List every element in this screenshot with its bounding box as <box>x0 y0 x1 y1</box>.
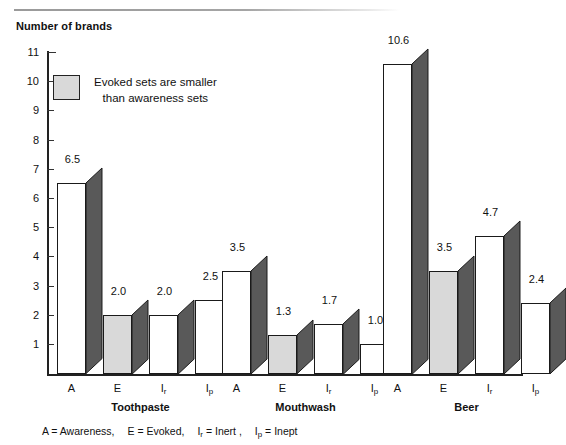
bar <box>429 256 474 374</box>
y-axis-tick <box>47 198 54 199</box>
bar-front-face <box>475 236 504 374</box>
y-axis-tick <box>47 227 54 228</box>
bar <box>103 300 148 374</box>
bar-value-label: 4.7 <box>483 206 498 218</box>
y-axis-tick <box>47 140 54 141</box>
bar-front-face <box>521 303 550 374</box>
bar-value-label: 1.3 <box>276 305 291 317</box>
x-axis-category-label: Ir <box>326 382 332 396</box>
legend-text: Evoked sets are smaller than awareness s… <box>94 74 217 106</box>
y-axis-tick-label: 5 <box>17 221 39 233</box>
bar-value-label: 2.0 <box>157 285 172 297</box>
bar-front-face <box>195 300 224 374</box>
bar <box>149 300 194 374</box>
y-axis-tick <box>47 110 54 111</box>
y-axis-line <box>47 51 49 374</box>
legend-swatch-evoked <box>53 75 80 100</box>
bar <box>268 320 313 374</box>
x-axis-category-label: Ir <box>487 382 493 396</box>
bar-front-face <box>383 64 412 374</box>
bar-front-face <box>314 324 343 374</box>
y-axis-tick <box>47 169 54 170</box>
footnote-item: Ir = Inert , <box>197 425 241 437</box>
y-axis-tick-label: 3 <box>17 280 39 292</box>
x-axis-baseline <box>47 374 523 376</box>
bar-front-face <box>222 271 251 374</box>
y-axis-tick-label: 10 <box>17 75 39 87</box>
x-axis-group-label: Mouthwash <box>275 401 336 413</box>
bar-front-face <box>268 335 297 374</box>
x-axis-group-label: Toothpaste <box>111 401 169 413</box>
footnote-item: E = Evoked, <box>127 425 184 437</box>
bar-front-face <box>149 315 178 374</box>
x-axis-category-label: E <box>279 382 286 394</box>
y-axis-tick-label: 7 <box>17 163 39 175</box>
bar-value-label: 6.5 <box>65 153 80 165</box>
y-axis-tick-label: 2 <box>17 309 39 321</box>
y-axis-tick-label: 11 <box>17 46 39 58</box>
y-axis-tick <box>47 52 56 53</box>
bar-value-label: 10.6 <box>388 34 409 46</box>
footnote-item: A = Awareness, <box>42 425 114 437</box>
bar <box>222 256 267 374</box>
footnote-item: Ip = Inept <box>255 425 298 437</box>
x-axis-category-label: Ip <box>206 382 214 396</box>
bar <box>475 221 520 374</box>
y-axis-tick <box>47 315 54 316</box>
x-axis-category-label: A <box>394 382 401 394</box>
bar <box>521 288 566 374</box>
x-axis-group-label: Beer <box>454 401 478 413</box>
footnote-abbreviations: A = Awareness,E = Evoked,Ir = Inert ,Ip … <box>42 425 298 439</box>
bar-front-face <box>103 315 132 374</box>
bar-value-label: 1.0 <box>368 314 383 326</box>
y-axis-tick-label: 8 <box>17 134 39 146</box>
bar-value-label: 2.5 <box>203 270 218 282</box>
x-axis-category-label: Ir <box>161 382 167 396</box>
y-axis-tick <box>47 344 54 345</box>
bar-value-label: 3.5 <box>230 241 245 253</box>
x-axis-category-label: Ip <box>371 382 379 396</box>
x-axis-category-label: A <box>68 382 75 394</box>
bar-front-face <box>57 183 86 374</box>
bar <box>383 49 428 374</box>
y-axis-tick-label: 1 <box>17 338 39 350</box>
bar-front-face <box>429 271 458 374</box>
legend-line-2: than awareness sets <box>94 90 217 106</box>
bar-value-label: 3.5 <box>437 241 452 253</box>
bar-value-label: 2.0 <box>111 285 126 297</box>
bar-value-label: 2.4 <box>529 273 544 285</box>
x-axis-category-label: E <box>440 382 447 394</box>
legend: Evoked sets are smaller than awareness s… <box>53 74 217 106</box>
x-axis-category-label: E <box>114 382 121 394</box>
y-axis-tick-label: 4 <box>17 250 39 262</box>
y-axis-tick-label: 6 <box>17 192 39 204</box>
bar <box>314 309 359 374</box>
y-axis-tick-label: 9 <box>17 104 39 116</box>
x-axis-category-label: Ip <box>532 382 540 396</box>
bar <box>57 168 102 374</box>
x-axis-category-label: A <box>233 382 240 394</box>
legend-line-1: Evoked sets are smaller <box>94 74 217 90</box>
y-axis-tick <box>47 256 54 257</box>
bar-value-label: 1.7 <box>322 294 337 306</box>
y-axis-tick <box>47 286 54 287</box>
